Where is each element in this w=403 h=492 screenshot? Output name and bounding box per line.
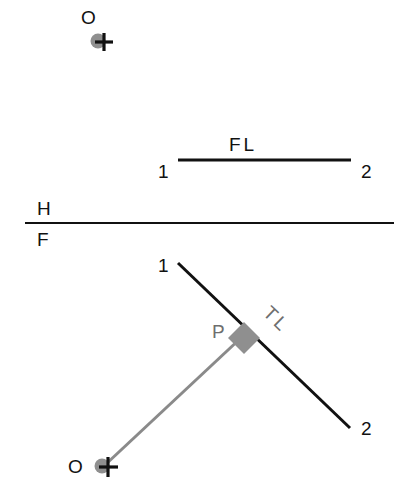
true-length-line xyxy=(178,263,350,428)
fl-label: FL xyxy=(229,134,257,155)
fold-label-f: F xyxy=(37,229,49,250)
tl-label: TL xyxy=(259,302,294,337)
orthographic-projection-diagram: O FL 1 2 H F 1 2 TL P O xyxy=(0,0,403,492)
top-endpoint-1-label: 1 xyxy=(158,161,169,182)
perpendicular-line xyxy=(105,336,243,465)
top-point-o: O xyxy=(81,7,113,51)
top-view: O FL 1 2 xyxy=(81,7,372,182)
top-line-1-2: FL 1 2 xyxy=(158,134,372,182)
front-endpoint-2-label: 2 xyxy=(361,418,372,439)
right-angle-marker-icon xyxy=(228,322,260,354)
front-view: 1 2 TL P O xyxy=(68,255,372,477)
fold-line-h-f: H F xyxy=(25,198,394,250)
fold-label-h: H xyxy=(37,198,51,219)
front-endpoint-1-label: 1 xyxy=(158,255,169,276)
top-point-o-label: O xyxy=(81,7,96,28)
point-p-label: P xyxy=(212,321,225,342)
front-point-o-label: O xyxy=(68,456,83,477)
top-endpoint-2-label: 2 xyxy=(361,161,372,182)
